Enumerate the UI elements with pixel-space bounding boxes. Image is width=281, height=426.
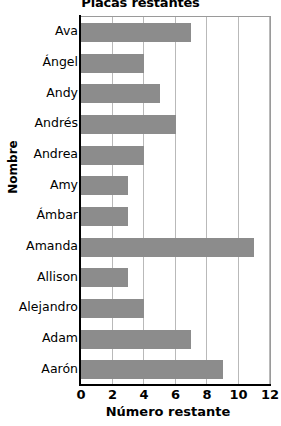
x-axis-tick-label: 0 — [66, 387, 96, 402]
y-axis-tick-label: Andy — [2, 85, 78, 100]
y-axis-tick-label: Ángel — [2, 54, 78, 69]
bar-chart: Placas restantes Nombre AvaÁngelAndyAndr… — [0, 0, 281, 426]
x-axis-tick-label: 8 — [192, 387, 222, 402]
bar — [81, 330, 191, 349]
y-axis-tick-label: Andrea — [2, 146, 78, 161]
bar — [81, 146, 144, 165]
y-axis-tick-label: Ámbar — [2, 207, 78, 222]
x-axis-tick-label: 6 — [161, 387, 191, 402]
gridline — [269, 17, 270, 385]
bar — [81, 207, 128, 226]
x-axis-tick-label: 12 — [255, 387, 281, 402]
gridline — [238, 17, 239, 385]
bar — [81, 176, 128, 195]
bar — [81, 84, 160, 103]
y-axis-category-labels: AvaÁngelAndyAndrésAndreaAmyÁmbarAmandaAl… — [0, 16, 78, 384]
x-axis-line — [79, 384, 271, 386]
bar — [81, 360, 223, 379]
y-axis-tick-label: Amy — [2, 177, 78, 192]
y-axis-line — [79, 15, 81, 386]
bar — [81, 268, 128, 287]
y-axis-tick-label: Andrés — [2, 115, 78, 130]
x-axis-tick-label: 2 — [98, 387, 128, 402]
bar — [81, 54, 144, 73]
y-axis-tick-label: Ava — [2, 23, 78, 38]
bar — [81, 115, 176, 134]
y-axis-tick-label: Allison — [2, 269, 78, 284]
bar — [81, 23, 191, 42]
y-axis-tick-label: Alejandro — [2, 299, 78, 314]
y-axis-tick-label: Adam — [2, 330, 78, 345]
plot-area — [81, 16, 271, 385]
chart-title: Placas restantes — [0, 0, 281, 11]
y-axis-tick-label: Amanda — [2, 238, 78, 253]
x-axis-title: Número restante — [55, 404, 281, 419]
x-axis-tick-labels: 024681012 — [0, 387, 281, 405]
gridline — [206, 17, 207, 385]
x-axis-tick-label: 10 — [224, 387, 254, 402]
y-axis-tick-label: Aarón — [2, 361, 78, 376]
x-axis-tick-label: 4 — [129, 387, 159, 402]
bar — [81, 238, 254, 257]
bar — [81, 299, 144, 318]
